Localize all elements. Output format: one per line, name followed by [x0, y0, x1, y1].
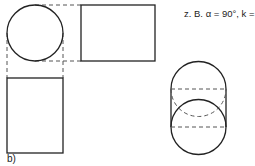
- front-view-circle: [7, 5, 63, 61]
- example-caption: z. B. α = 90°, k = 1 2: [184, 6, 255, 21]
- caption-text: z. B. α = 90°, k =: [184, 8, 255, 19]
- projection-diagram: [0, 0, 255, 166]
- oblique-cylinder: [171, 62, 226, 155]
- figure-label: b): [7, 153, 16, 164]
- top-view-rectangle: [7, 78, 63, 153]
- projection-lines: [7, 5, 81, 78]
- side-view-rectangle: [81, 5, 155, 61]
